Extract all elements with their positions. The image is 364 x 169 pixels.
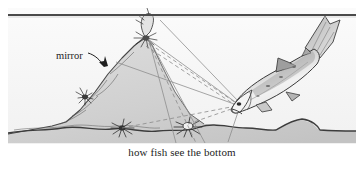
fish-eye bbox=[237, 102, 242, 106]
figure-caption: how fish see the bottom bbox=[0, 146, 364, 158]
illustration-canvas bbox=[0, 0, 364, 169]
water-column bbox=[8, 8, 356, 144]
mirror-label: mirror bbox=[56, 50, 83, 61]
figure-how-fish-see-the-bottom: mirror how fish see the bottom bbox=[0, 0, 364, 169]
